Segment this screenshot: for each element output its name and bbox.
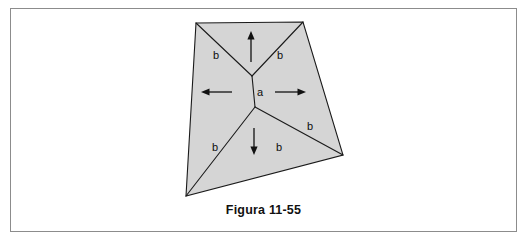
figure-page: b b a b b b Figura 11-55 (0, 0, 527, 242)
label-b-lower-middle: b (276, 141, 282, 153)
figure-caption: Figura 11-55 (0, 203, 527, 217)
label-b-lower-left: b (212, 141, 218, 153)
quadrilateral-outline (186, 22, 343, 196)
label-b-lower-right: b (307, 120, 313, 132)
label-a-center: a (257, 86, 264, 98)
label-b-upper-left: b (213, 49, 219, 61)
label-b-upper-right: b (277, 49, 283, 61)
